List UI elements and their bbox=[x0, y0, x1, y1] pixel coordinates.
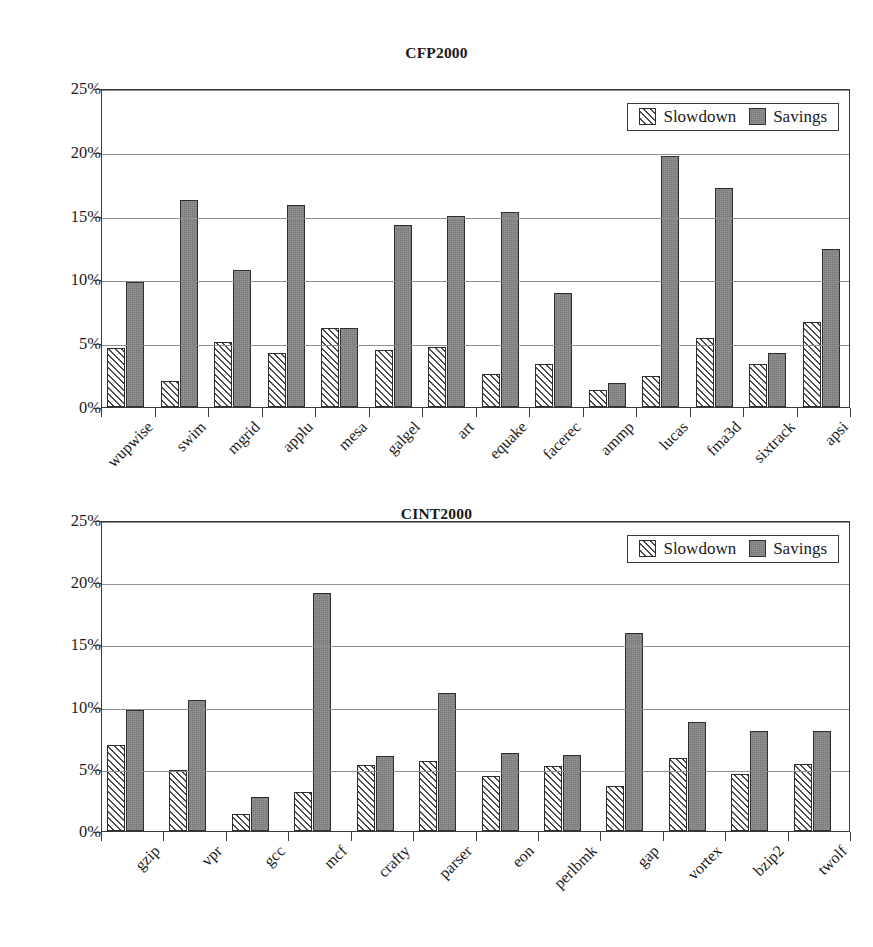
x-axis-tick-mark bbox=[422, 408, 423, 417]
bar-savings[interactable] bbox=[688, 722, 706, 831]
bar-savings[interactable] bbox=[233, 270, 251, 407]
x-axis-category-label: mgrid bbox=[224, 418, 264, 458]
x-axis-tick-mark bbox=[369, 408, 370, 417]
bar-savings[interactable] bbox=[501, 753, 519, 831]
bar-group bbox=[726, 522, 788, 831]
bar-slowdown[interactable] bbox=[268, 353, 286, 407]
x-axis-category-label: applu bbox=[279, 418, 317, 456]
bar-savings[interactable] bbox=[563, 755, 581, 831]
legend-item-slowdown[interactable]: Slowdown bbox=[639, 108, 736, 125]
bar-group bbox=[477, 90, 531, 407]
bar-slowdown[interactable] bbox=[794, 764, 812, 831]
bar-savings[interactable] bbox=[813, 731, 831, 831]
bar-savings[interactable] bbox=[822, 249, 840, 407]
x-axis-tick-mark bbox=[208, 408, 209, 417]
x-axis-tick-mark bbox=[583, 408, 584, 417]
bar-slowdown[interactable] bbox=[482, 374, 500, 407]
bar-slowdown[interactable] bbox=[696, 338, 714, 407]
bar-slowdown[interactable] bbox=[375, 350, 393, 407]
bar-slowdown[interactable] bbox=[544, 766, 562, 831]
legend-item-savings[interactable]: Savings bbox=[749, 108, 827, 125]
bar-slowdown[interactable] bbox=[294, 792, 312, 831]
bar-savings[interactable] bbox=[313, 593, 331, 831]
x-axis-tick-mark bbox=[101, 408, 102, 417]
bar-savings[interactable] bbox=[768, 353, 786, 407]
x-axis-tick-mark bbox=[636, 408, 637, 417]
bar-slowdown[interactable] bbox=[428, 347, 446, 407]
x-axis-tick-mark bbox=[850, 832, 851, 841]
bar-savings[interactable] bbox=[554, 293, 572, 407]
gridline bbox=[102, 522, 849, 523]
bar-slowdown[interactable] bbox=[535, 364, 553, 407]
bar-savings[interactable] bbox=[715, 188, 733, 407]
bar-slowdown[interactable] bbox=[803, 322, 821, 407]
x-axis-tick-mark bbox=[413, 832, 414, 841]
x-axis-category-label: apsi bbox=[821, 418, 852, 449]
bar-slowdown[interactable] bbox=[357, 765, 375, 831]
legend-item-slowdown[interactable]: Slowdown bbox=[639, 540, 736, 557]
bar-savings[interactable] bbox=[438, 693, 456, 831]
x-axis-category-label: gcc bbox=[260, 842, 288, 870]
bar-slowdown[interactable] bbox=[731, 774, 749, 831]
x-axis-tick-mark bbox=[788, 832, 789, 841]
bar-savings[interactable] bbox=[188, 700, 206, 831]
bar-slowdown[interactable] bbox=[161, 381, 179, 407]
legend-item-savings[interactable]: Savings bbox=[749, 540, 827, 557]
bar-group bbox=[423, 90, 477, 407]
chart-cfp2000: CFP2000 0%5%10%15%20%25% Slowdown Saving… bbox=[0, 0, 873, 497]
bar-slowdown[interactable] bbox=[606, 786, 624, 831]
bar-group bbox=[164, 522, 226, 831]
x-axis-category-label: bzip2 bbox=[750, 842, 788, 880]
bar-slowdown[interactable] bbox=[107, 745, 125, 831]
bar-group bbox=[539, 522, 601, 831]
bar-slowdown[interactable] bbox=[214, 342, 232, 407]
bar-savings[interactable] bbox=[376, 756, 394, 831]
x-axis-category-label: perlbmk bbox=[550, 842, 600, 892]
bar-group bbox=[530, 90, 584, 407]
bar-slowdown[interactable] bbox=[232, 814, 250, 831]
bar-group bbox=[263, 90, 317, 407]
x-axis-tick-mark bbox=[538, 832, 539, 841]
bar-slowdown[interactable] bbox=[669, 758, 687, 831]
gridline bbox=[102, 154, 849, 155]
legend-cfp2000: Slowdown Savings bbox=[627, 103, 839, 131]
bar-savings[interactable] bbox=[608, 383, 626, 407]
bar-group bbox=[370, 90, 424, 407]
chart-cint2000: CINT2000 0%5%10%15%20%25% Slowdown Savin… bbox=[0, 497, 873, 947]
bar-slowdown[interactable] bbox=[482, 776, 500, 831]
x-axis-tick-mark bbox=[476, 832, 477, 841]
legend-swatch-slowdown-icon bbox=[639, 108, 656, 125]
bar-slowdown[interactable] bbox=[749, 364, 767, 407]
bar-savings[interactable] bbox=[180, 200, 198, 407]
bar-slowdown[interactable] bbox=[589, 390, 607, 407]
bar-group bbox=[789, 522, 851, 831]
bars-layer-cfp2000 bbox=[102, 90, 849, 407]
bar-group bbox=[227, 522, 289, 831]
bar-savings[interactable] bbox=[287, 205, 305, 407]
bar-group bbox=[316, 90, 370, 407]
x-axis-category-label: parser bbox=[435, 842, 475, 882]
x-axis-category-label: equake bbox=[486, 418, 531, 463]
x-axis-category-label: eon bbox=[509, 842, 538, 871]
legend-cint2000: Slowdown Savings bbox=[627, 535, 839, 563]
bar-savings[interactable] bbox=[750, 731, 768, 831]
y-axis-tick-mark bbox=[93, 153, 101, 154]
bar-savings[interactable] bbox=[447, 216, 465, 407]
legend-swatch-slowdown-icon bbox=[639, 540, 656, 557]
x-axis-category-label: ammp bbox=[597, 418, 638, 459]
bar-slowdown[interactable] bbox=[169, 770, 187, 831]
bar-slowdown[interactable] bbox=[321, 328, 339, 407]
bar-savings[interactable] bbox=[340, 328, 358, 407]
bar-group bbox=[414, 522, 476, 831]
x-axis-tick-mark bbox=[850, 408, 851, 417]
legend-label-savings: Savings bbox=[773, 540, 827, 557]
bar-savings[interactable] bbox=[501, 212, 519, 407]
bar-slowdown[interactable] bbox=[107, 348, 125, 407]
bar-savings[interactable] bbox=[251, 797, 269, 831]
x-axis-category-label: vpr bbox=[198, 842, 226, 870]
x-axis-category-label: wupwise bbox=[104, 418, 157, 471]
y-axis-tick-mark bbox=[93, 280, 101, 281]
bar-slowdown[interactable] bbox=[642, 376, 660, 407]
bar-savings[interactable] bbox=[625, 633, 643, 831]
bar-savings[interactable] bbox=[394, 225, 412, 407]
